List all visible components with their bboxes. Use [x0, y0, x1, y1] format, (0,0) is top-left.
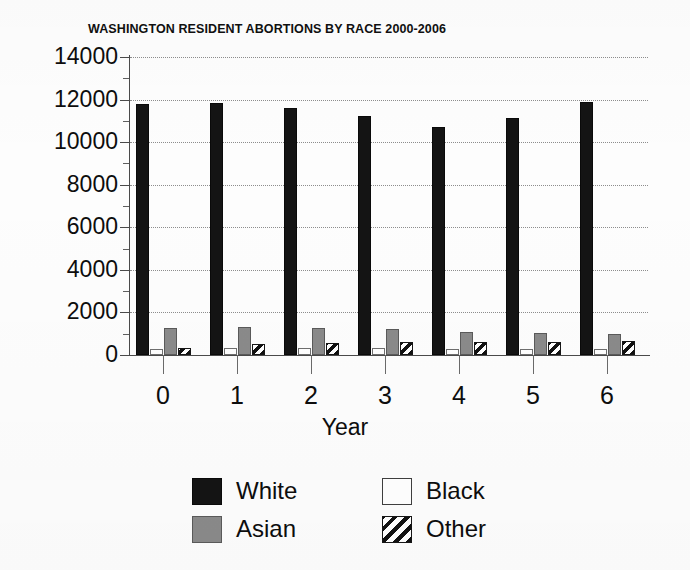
- legend-label: Black: [426, 478, 485, 504]
- y-axis-tick-label: 6000: [10, 215, 118, 238]
- diagonal-hatch-swatch-icon: [382, 516, 412, 543]
- bar-white-year-6: [580, 102, 593, 355]
- x-axis-tick: [311, 355, 312, 374]
- chart-figure: WASHINGTON RESIDENT ABORTIONS BY RACE 20…: [0, 0, 690, 570]
- gridline: [130, 312, 648, 313]
- legend-entry-black[interactable]: Black: [382, 478, 527, 505]
- legend-label: Asian: [236, 516, 296, 542]
- x-axis-title: Year: [0, 414, 690, 441]
- bar-black-year-3: [372, 348, 385, 355]
- gridline: [130, 142, 648, 143]
- x-axis-tick: [163, 355, 164, 374]
- bar-black-year-1: [224, 348, 237, 355]
- bar-asian-year-5: [534, 333, 547, 355]
- solid-gray-swatch-icon: [192, 516, 222, 543]
- gridline: [130, 227, 648, 228]
- x-axis-tick-label: 5: [513, 382, 553, 409]
- chart-title: WASHINGTON RESIDENT ABORTIONS BY RACE 20…: [88, 22, 608, 36]
- y-axis-tick-label: 0: [10, 343, 118, 366]
- bar-white-year-4: [432, 127, 445, 355]
- gridline: [130, 57, 648, 58]
- bar-other-year-0: [178, 348, 191, 355]
- y-axis-tick-label: 8000: [10, 173, 118, 196]
- x-axis-line: [129, 355, 650, 356]
- y-axis-tick-label: 12000: [10, 88, 118, 111]
- bar-asian-year-6: [608, 334, 621, 355]
- legend-label: White: [236, 478, 297, 504]
- bar-black-year-6: [594, 349, 607, 355]
- bar-asian-year-1: [238, 327, 251, 355]
- chart-legend: WhiteBlackAsianOther: [192, 472, 522, 548]
- x-axis-tick-label: 3: [365, 382, 405, 409]
- x-axis-tick-label: 2: [291, 382, 331, 409]
- bar-white-year-0: [136, 104, 149, 355]
- x-axis-tick: [237, 355, 238, 374]
- y-axis-tick-label: 4000: [10, 258, 118, 281]
- bar-black-year-4: [446, 349, 459, 355]
- empty-white-swatch-icon: [382, 478, 412, 505]
- legend-label: Other: [426, 516, 486, 542]
- bar-other-year-3: [400, 342, 413, 355]
- solid-black-swatch-icon: [192, 478, 222, 505]
- bar-black-year-2: [298, 348, 311, 355]
- x-axis-tick: [459, 355, 460, 374]
- bar-other-year-5: [548, 342, 561, 355]
- bar-white-year-2: [284, 108, 297, 355]
- gridline: [130, 270, 648, 271]
- legend-entry-white[interactable]: White: [192, 478, 382, 505]
- gridline: [130, 100, 648, 101]
- y-axis-tick-label: 2000: [10, 300, 118, 323]
- x-axis-tick-label: 1: [217, 382, 257, 409]
- plot-area: [130, 57, 648, 355]
- bar-asian-year-3: [386, 329, 399, 355]
- bar-white-year-5: [506, 118, 519, 355]
- bar-other-year-1: [252, 344, 265, 355]
- x-axis-tick-label: 0: [143, 382, 183, 409]
- bar-other-year-4: [474, 342, 487, 355]
- gridline: [130, 185, 648, 186]
- x-axis-tick-label: 6: [587, 382, 627, 409]
- x-axis-tick-label: 4: [439, 382, 479, 409]
- bar-other-year-2: [326, 343, 339, 355]
- bar-white-year-1: [210, 103, 223, 355]
- legend-entry-other[interactable]: Other: [382, 516, 527, 543]
- x-axis-tick: [533, 355, 534, 374]
- legend-entry-asian[interactable]: Asian: [192, 516, 382, 543]
- bar-asian-year-0: [164, 328, 177, 355]
- bar-white-year-3: [358, 116, 371, 355]
- bar-asian-year-4: [460, 332, 473, 355]
- bar-asian-year-2: [312, 328, 325, 355]
- y-axis-tick-label: 14000: [10, 45, 118, 68]
- bar-black-year-5: [520, 349, 533, 355]
- x-axis-tick: [607, 355, 608, 374]
- x-axis-tick: [385, 355, 386, 374]
- bar-black-year-0: [150, 349, 163, 355]
- y-axis-tick-label: 10000: [10, 130, 118, 153]
- bar-other-year-6: [622, 341, 635, 355]
